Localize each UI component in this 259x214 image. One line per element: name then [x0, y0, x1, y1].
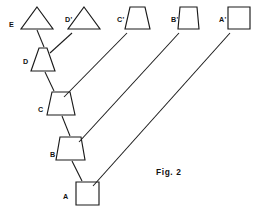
shape-label-b: B [50, 150, 55, 159]
shape-a-prime [228, 7, 250, 29]
connector-d-c [45, 72, 54, 91]
connector-aprime-a [93, 33, 230, 186]
figure-diagram: E D C B A D' C' B' A' Fig. 2 [0, 0, 259, 214]
connector-dprime-d [50, 33, 72, 53]
primed-label-group: D' C' B' A' [65, 15, 226, 24]
shape-c-prime [125, 7, 150, 29]
figure-canvas: E D C B A D' C' B' A' Fig. 2 [0, 0, 259, 214]
shape-label-c: C [38, 105, 43, 114]
shape-label-a: A [63, 192, 68, 201]
shape-label-a-prime: A' [219, 15, 226, 24]
chain-connector-group [37, 30, 82, 181]
diagonal-connector-group [50, 33, 230, 186]
staircase-shape-group [21, 7, 99, 205]
shape-b-prime [178, 7, 199, 29]
shape-label-b-prime: B' [171, 15, 178, 24]
shape-label-c-prime: C' [117, 15, 124, 24]
connector-bprime-b [79, 33, 179, 142]
shape-label-e: E [9, 20, 14, 29]
shape-c [47, 92, 75, 115]
shape-e [21, 7, 53, 29]
shape-a [76, 182, 99, 205]
figure-caption: Fig. 2 [156, 167, 181, 177]
connector-e-d [37, 30, 44, 47]
connector-b-a [72, 161, 82, 181]
shape-label-d: D [23, 57, 28, 66]
connector-c-b [62, 116, 70, 136]
shape-label-d-prime: D' [65, 15, 72, 24]
staircase-label-group: E D C B A [9, 20, 68, 201]
shape-d-prime [68, 7, 100, 29]
connector-cprime-c [64, 33, 127, 97]
